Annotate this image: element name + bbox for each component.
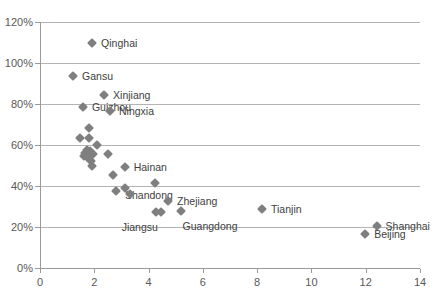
- x-axis-tick: [94, 269, 95, 273]
- data-point-guangdong: [176, 206, 186, 216]
- data-point: [92, 140, 102, 150]
- x-axis-tick: [366, 269, 367, 273]
- point-label-qinghai: Qinghai: [101, 37, 137, 48]
- data-point-hainan: [120, 162, 130, 172]
- point-label-beijing: Beijing: [374, 228, 406, 239]
- x-axis-tick-label: 0: [25, 277, 55, 288]
- point-label-zhejiang: Zhejiang: [177, 196, 217, 207]
- gridline: [40, 63, 420, 64]
- x-axis-tick: [311, 269, 312, 273]
- data-point-xinjiang: [99, 90, 109, 100]
- y-axis-tick-label: 80%: [11, 99, 33, 110]
- gridline: [40, 186, 420, 187]
- data-point-beijing: [360, 229, 370, 239]
- y-axis-tick-label: 100%: [5, 58, 33, 69]
- x-axis-tick-label: 14: [405, 277, 435, 288]
- y-axis-tick-label: 20%: [11, 222, 33, 233]
- data-point-qinghai: [87, 38, 97, 48]
- x-axis-line: [40, 268, 420, 269]
- y-axis-tick: [35, 227, 40, 228]
- data-point: [84, 123, 94, 133]
- x-axis-tick-label: 8: [242, 277, 272, 288]
- x-axis-tick: [149, 269, 150, 273]
- x-axis-tick: [40, 269, 41, 273]
- y-axis-tick-label: 60%: [11, 140, 33, 151]
- point-label-ningxia: Ningxia: [119, 106, 154, 117]
- x-axis-tick-label: 12: [351, 277, 381, 288]
- x-axis-tick-label: 10: [296, 277, 326, 288]
- y-axis-tick: [35, 22, 40, 23]
- data-point-gansu: [68, 71, 78, 81]
- x-axis-tick: [420, 269, 421, 273]
- point-label-guangdong: Guangdong: [183, 221, 238, 232]
- x-axis-tick-label: 4: [134, 277, 164, 288]
- x-axis-tick: [257, 269, 258, 273]
- y-axis-tick: [35, 145, 40, 146]
- point-label-xinjiang: Xinjiang: [113, 89, 150, 100]
- x-axis-tick-label: 2: [79, 277, 109, 288]
- data-point: [108, 170, 118, 180]
- y-axis-tick: [35, 63, 40, 64]
- point-label-gansu: Gansu: [82, 71, 113, 82]
- y-axis-tick: [35, 104, 40, 105]
- x-axis-tick: [203, 269, 204, 273]
- data-point-tianjin: [257, 204, 267, 214]
- data-point: [103, 149, 113, 159]
- x-axis-tick-label: 6: [188, 277, 218, 288]
- y-axis-tick: [35, 186, 40, 187]
- scatter-chart: 0%20%40%60%80%100%120% QinghaiGansuXinji…: [0, 0, 437, 303]
- y-axis-tick-label: 0%: [17, 263, 33, 274]
- y-axis-tick-label: 120%: [5, 17, 33, 28]
- gridline: [40, 22, 420, 23]
- data-point: [84, 133, 94, 143]
- plot-area: QinghaiGansuXinjiangGuizhouNingxiaHainan…: [40, 22, 420, 268]
- point-label-jiangsu: Jiangsu: [122, 221, 158, 232]
- point-label-tianjin: Tianjin: [271, 203, 302, 214]
- y-axis-line: [40, 22, 41, 269]
- y-axis-tick-label: 40%: [11, 181, 33, 192]
- point-label-hainan: Hainan: [134, 162, 167, 173]
